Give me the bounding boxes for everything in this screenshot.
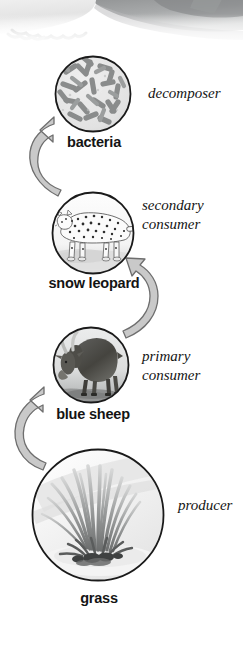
arrow-snow-leopard-to-bacteria — [30, 117, 61, 196]
node-image-blue-sheep — [52, 326, 132, 406]
food-chain-figure: decomposer bacteria secondary consumer s… — [0, 0, 243, 645]
role-label-producer: producer — [178, 497, 232, 514]
arrow-grass-to-blue-sheep — [15, 387, 46, 470]
node-image-grass — [32, 449, 164, 581]
role-label-secondary-consumer-line2: consumer — [142, 216, 200, 233]
role-label-secondary-consumer-line1: secondary — [142, 197, 204, 214]
role-label-primary-consumer-line2: consumer — [142, 367, 200, 384]
caption-bacteria: bacteria — [58, 134, 130, 150]
arrow-blue-sheep-to-snow-leopard — [123, 258, 158, 338]
node-image-bacteria — [54, 55, 134, 135]
caption-snow-leopard: snow leopard — [45, 275, 143, 291]
role-label-primary-consumer-line1: primary — [142, 348, 190, 365]
caption-grass: grass — [72, 590, 126, 606]
mountain-rock-photo-fragment — [0, 0, 243, 46]
caption-blue-sheep: blue sheep — [52, 406, 134, 422]
role-label-decomposer: decomposer — [148, 85, 220, 102]
